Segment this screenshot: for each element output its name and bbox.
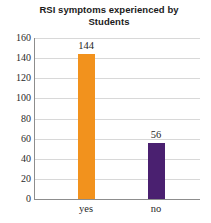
y-axis-tick-labels: 160140120100806040200 — [0, 0, 31, 223]
y-tick-label: 20 — [5, 174, 31, 184]
bar-value-label: 144 — [61, 40, 111, 51]
bar-no[interactable] — [148, 143, 165, 199]
bar-chart: RSI symptoms experienced by Students 160… — [0, 0, 211, 223]
y-tick-label: 100 — [5, 93, 31, 103]
y-tick-label: 160 — [5, 33, 31, 43]
chart-title-line-1: RSI symptoms experienced by — [28, 4, 190, 16]
chart-title: RSI symptoms experienced by Students — [28, 4, 190, 28]
category-label-no: no — [131, 203, 181, 214]
bar-yes[interactable] — [78, 54, 95, 199]
bars-layer: 14456 — [34, 38, 200, 199]
x-axis-category-labels: yesno — [34, 201, 200, 217]
x-axis-baseline — [34, 199, 200, 200]
bar-value-label: 56 — [131, 129, 181, 140]
category-label-yes: yes — [61, 203, 111, 214]
y-tick-label: 0 — [5, 194, 31, 204]
chart-title-line-2: Students — [28, 16, 190, 28]
y-tick-label: 140 — [5, 53, 31, 63]
y-tick-label: 40 — [5, 154, 31, 164]
y-tick-label: 60 — [5, 134, 31, 144]
y-tick-label: 80 — [5, 114, 31, 124]
y-tick-label: 120 — [5, 73, 31, 83]
